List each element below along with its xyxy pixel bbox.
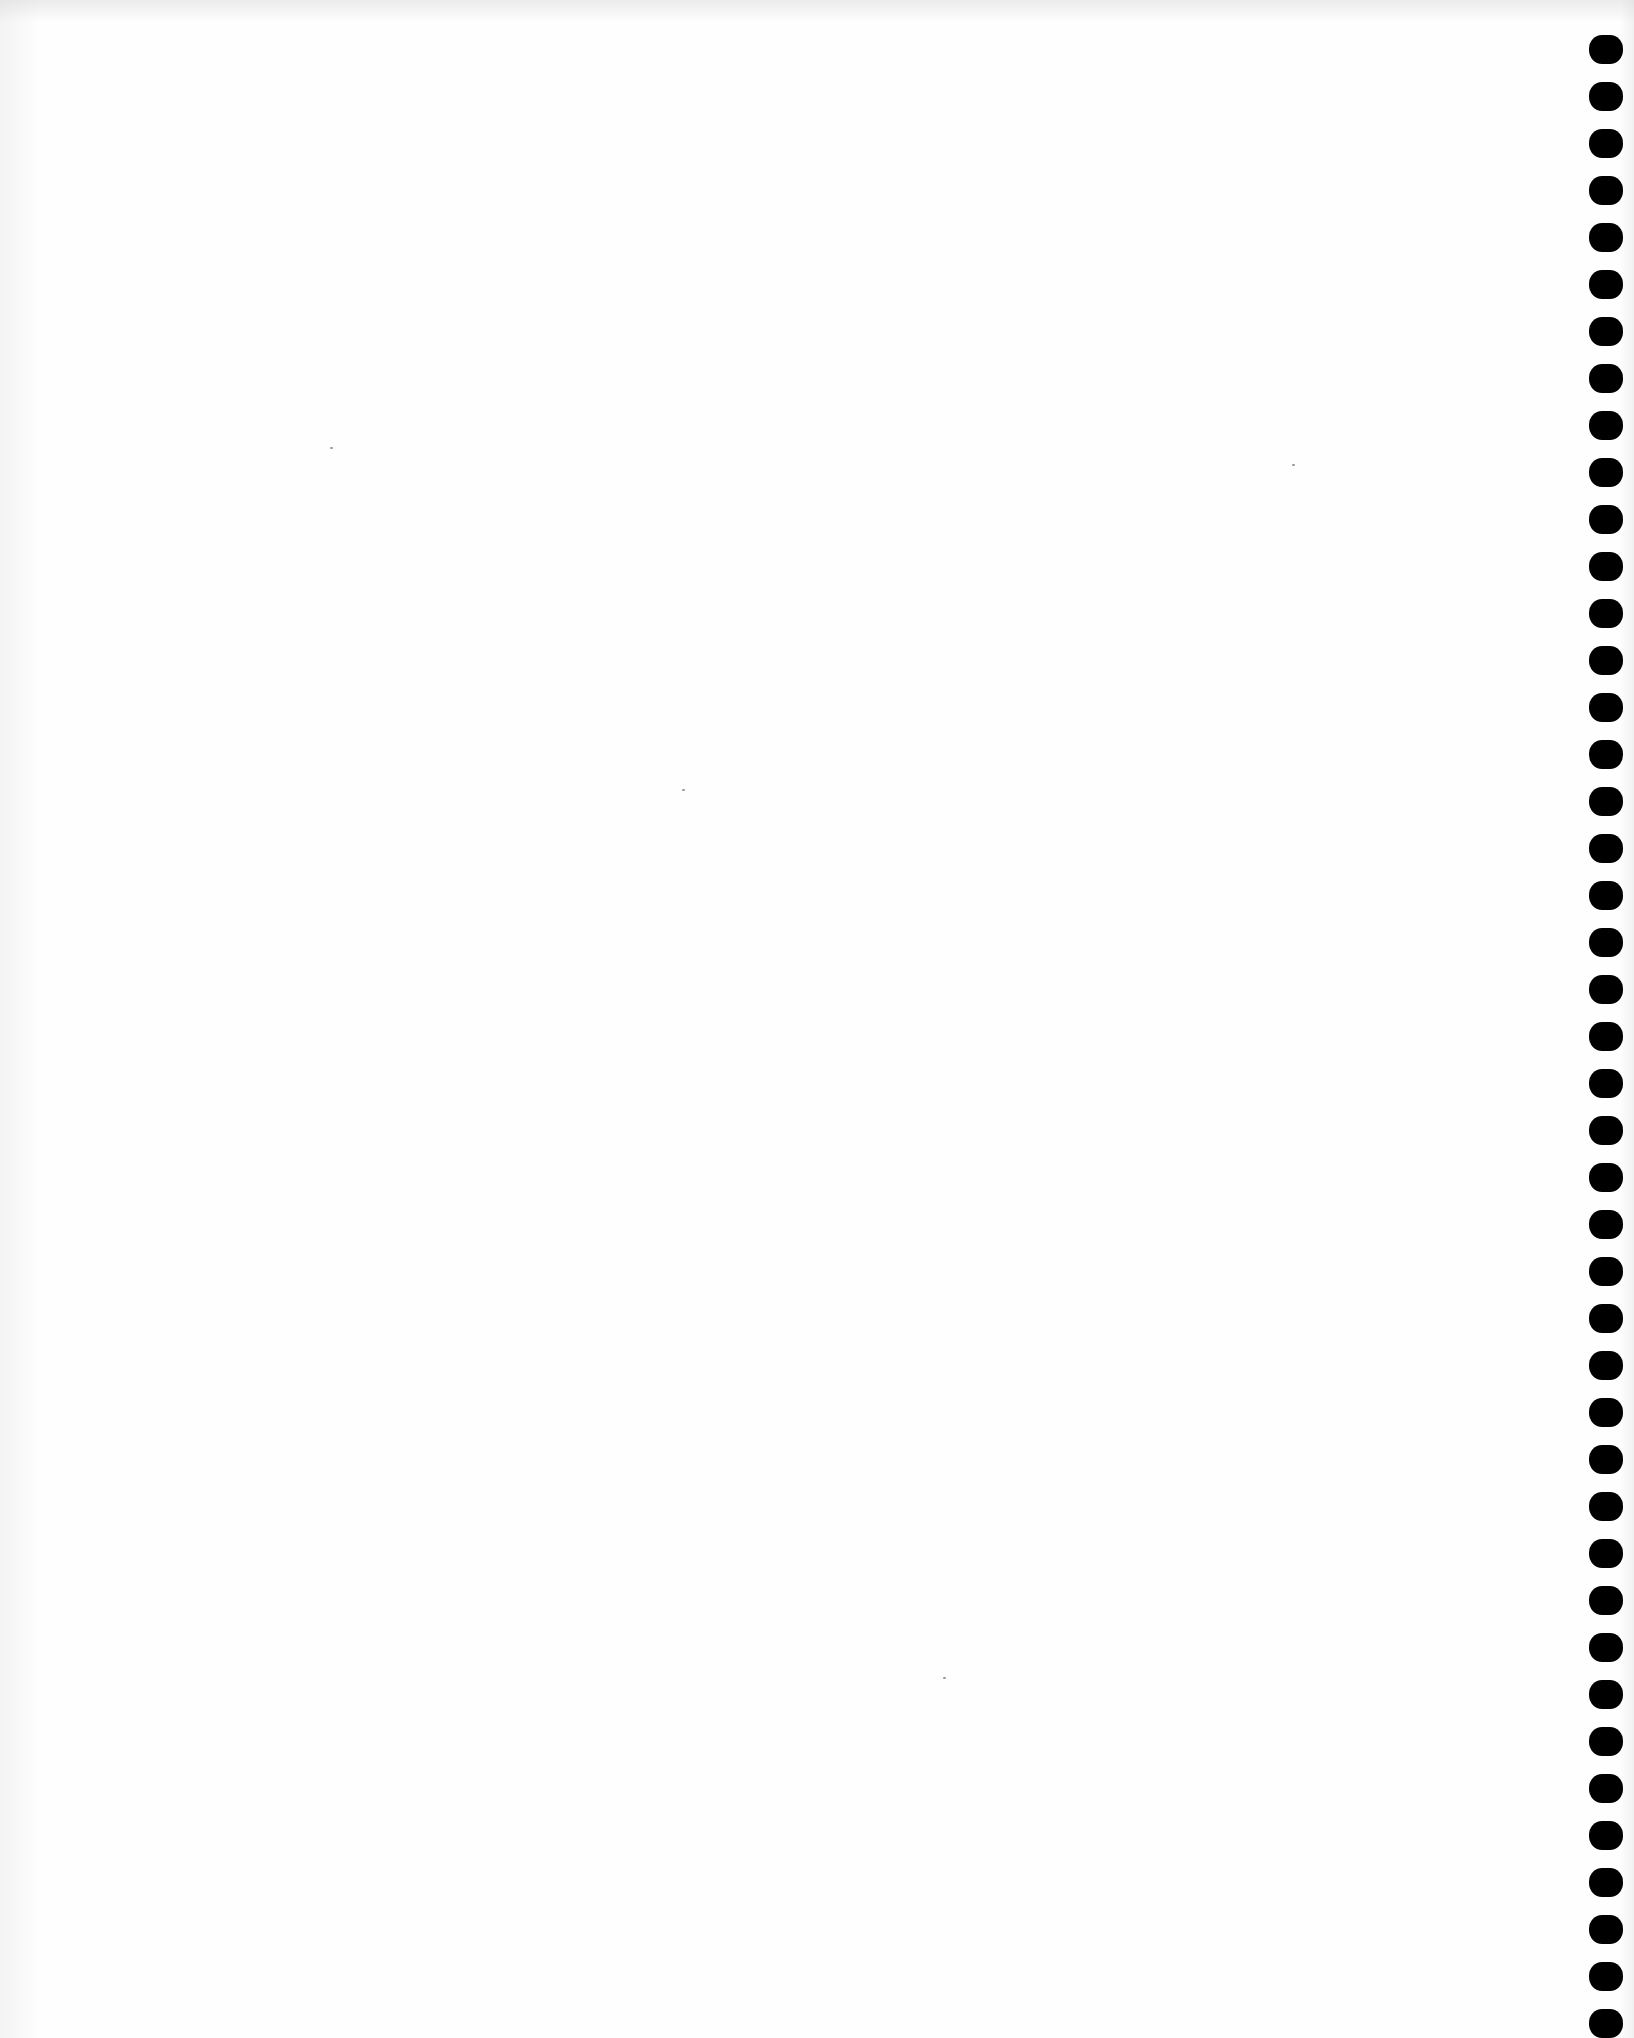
punch-hole [1589, 1492, 1623, 1521]
punch-hole [1589, 270, 1623, 299]
punch-hole [1589, 82, 1623, 111]
punch-hole [1589, 1304, 1623, 1333]
punch-hole [1589, 1962, 1623, 1991]
scan-speck [1292, 464, 1295, 466]
punch-hole [1589, 928, 1623, 957]
punch-hole [1589, 317, 1623, 346]
punch-hole [1589, 176, 1623, 205]
punch-hole [1589, 1398, 1623, 1427]
punch-hole [1589, 223, 1623, 252]
punch-hole [1589, 1351, 1623, 1380]
punch-hole [1589, 1774, 1623, 1803]
punch-hole [1589, 458, 1623, 487]
punch-hole [1589, 646, 1623, 675]
punch-hole [1589, 1680, 1623, 1709]
punch-hole [1589, 1868, 1623, 1897]
punch-hole [1589, 787, 1623, 816]
punch-hole [1589, 1586, 1623, 1615]
punch-hole [1589, 1915, 1623, 1944]
punch-hole [1589, 881, 1623, 910]
punch-hole-column [1589, 0, 1623, 2038]
punch-hole [1589, 1163, 1623, 1192]
scan-shadow-top [0, 0, 1634, 22]
punch-hole [1589, 1210, 1623, 1239]
punch-hole [1589, 364, 1623, 393]
punch-hole [1589, 1069, 1623, 1098]
punch-hole [1589, 599, 1623, 628]
punch-hole [1589, 1727, 1623, 1756]
scan-speck [330, 447, 333, 449]
punch-hole [1589, 693, 1623, 722]
punch-hole [1589, 1116, 1623, 1145]
punch-hole [1589, 834, 1623, 863]
punch-hole [1589, 1633, 1623, 1662]
scan-speck [943, 1677, 946, 1679]
punch-hole [1589, 1539, 1623, 1568]
scanned-page [0, 0, 1634, 2038]
punch-hole [1589, 411, 1623, 440]
punch-hole [1589, 975, 1623, 1004]
scan-speck [682, 789, 685, 791]
punch-hole [1589, 552, 1623, 581]
punch-hole [1589, 1445, 1623, 1474]
punch-hole [1589, 2009, 1623, 2038]
punch-hole [1589, 129, 1623, 158]
punch-hole [1589, 1821, 1623, 1850]
punch-hole [1589, 1022, 1623, 1051]
punch-hole [1589, 35, 1623, 64]
punch-hole [1589, 1257, 1623, 1286]
scan-shadow-left [0, 0, 40, 2038]
punch-hole [1589, 505, 1623, 534]
punch-hole [1589, 740, 1623, 769]
